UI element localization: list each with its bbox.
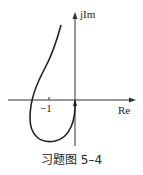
nyquist-diagram (0, 0, 143, 175)
real-axis-arrow-icon (129, 98, 136, 103)
y-axis-label: jIm (80, 8, 95, 20)
tick-label: −1 (40, 102, 52, 114)
imag-axis-arrow-icon (73, 12, 78, 19)
x-axis-label: Re (118, 104, 130, 116)
nyquist-curve (30, 25, 75, 142)
figure-caption: 习题图 5–4 (0, 150, 143, 167)
